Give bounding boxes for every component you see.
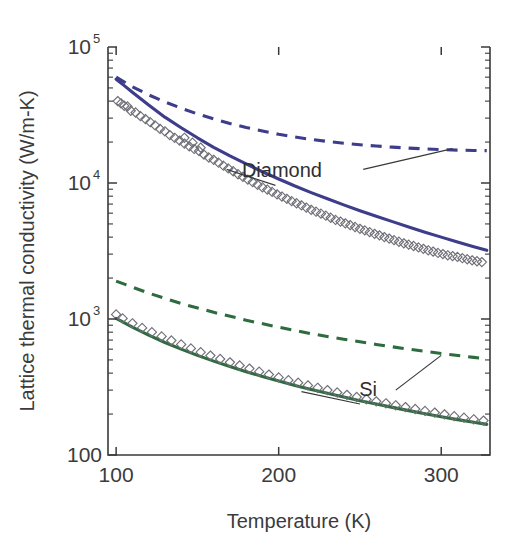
y-tick-label-exponent: 3 [93, 303, 100, 318]
x-tick-label-200: 200 [261, 463, 296, 486]
y-tick-label-base: 100 [67, 443, 102, 466]
si-annotation-label: Si [359, 378, 377, 400]
thermal-conductivity-chart: 100200300100103104105 DiamondSi Temperat… [0, 0, 518, 542]
x-tick-label-100: 100 [99, 463, 134, 486]
y-tick-label-exponent: 5 [93, 31, 100, 46]
y-tick-label-exponent: 4 [93, 167, 100, 182]
diamond-annotation-label: Diamond [242, 159, 322, 181]
x-tick-label-300: 300 [424, 463, 459, 486]
figure-root: 100200300100103104105 DiamondSi Temperat… [0, 0, 518, 542]
y-tick-label-base: 10 [68, 171, 91, 194]
y-tick-label-base: 10 [68, 35, 91, 58]
y-tick-label-base: 10 [68, 307, 91, 330]
y-tick-label-100: 100 [67, 443, 102, 466]
y-axis-title: Lattice thermal conductivity (W/m-K) [16, 90, 38, 411]
x-axis-title: Temperature (K) [227, 510, 372, 532]
